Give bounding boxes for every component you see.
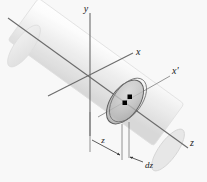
x-axis-label: x [135, 46, 141, 57]
physics-figure: y x x' z z dz [0, 0, 207, 182]
z-axis-label: z [189, 137, 194, 148]
y-axis-label: y [83, 3, 89, 14]
disc-center-marker [123, 101, 128, 106]
x-prime-axis-label: x' [171, 65, 179, 76]
figure-canvas: y x x' z z dz [0, 0, 207, 182]
dimension-z-label: z [100, 135, 105, 145]
dimension-dz-label: dz [145, 160, 154, 170]
disc-offset-marker [128, 95, 133, 100]
